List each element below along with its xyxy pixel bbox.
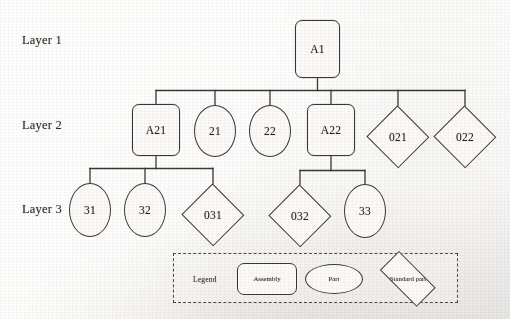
node-22-label: 22 <box>264 125 276 137</box>
node-33[interactable]: 33 <box>344 184 386 238</box>
node-32[interactable]: 32 <box>124 183 166 237</box>
legend-box: Legend Assembly Part Standard part <box>173 253 458 303</box>
node-021[interactable]: 021 <box>366 106 430 168</box>
legend-item-part: Part <box>305 264 363 294</box>
layer-label-2: Layer 2 <box>22 118 62 133</box>
legend-part-label: Part <box>329 275 340 283</box>
legend-item-assembly: Assembly <box>237 263 297 295</box>
node-32-label: 32 <box>139 204 151 216</box>
node-022[interactable]: 022 <box>433 106 497 168</box>
node-31-label: 31 <box>84 204 96 216</box>
node-22[interactable]: 22 <box>249 105 291 157</box>
node-022-label: 022 <box>456 131 474 143</box>
node-a21-label: A21 <box>146 124 167 136</box>
layer-label-3: Layer 3 <box>22 202 62 217</box>
node-031[interactable]: 031 <box>181 184 245 246</box>
node-21[interactable]: 21 <box>194 105 236 157</box>
legend-item-standard-part: Standard part <box>367 258 449 300</box>
node-021-label: 021 <box>389 131 407 143</box>
node-031-label: 031 <box>204 209 222 221</box>
node-33-label: 33 <box>359 205 371 217</box>
layer-label-1: Layer 1 <box>22 33 62 48</box>
node-032-label: 032 <box>291 210 309 222</box>
node-a22-label: A22 <box>321 124 342 136</box>
diagram-canvas: Layer 1 Layer 2 Layer 3 A1 A21 21 22 A22… <box>0 0 510 319</box>
node-a1[interactable]: A1 <box>295 20 340 78</box>
node-a22[interactable]: A22 <box>307 104 355 156</box>
node-032[interactable]: 032 <box>268 185 332 247</box>
legend-standard-label: Standard part <box>390 275 426 283</box>
node-a21[interactable]: A21 <box>132 104 180 156</box>
legend-title: Legend <box>193 275 217 284</box>
node-31[interactable]: 31 <box>69 183 111 237</box>
node-21-label: 21 <box>209 125 221 137</box>
legend-assembly-label: Assembly <box>253 275 280 283</box>
node-a1-label: A1 <box>310 43 325 55</box>
